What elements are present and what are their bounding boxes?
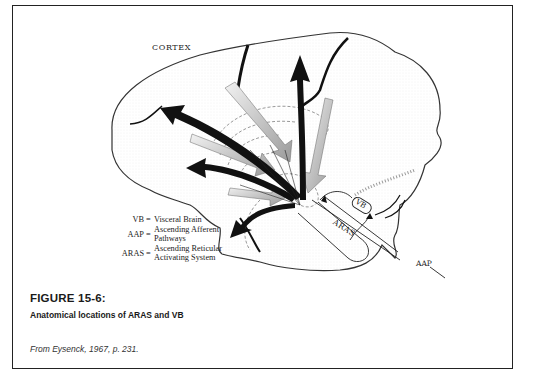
legend: VB = Visceral Brain AAP = Ascending Affe…: [100, 215, 236, 263]
legend-row-vb: VB = Visceral Brain: [100, 215, 236, 225]
legend-value: Visceral Brain: [154, 215, 202, 225]
legend-equals: =: [146, 225, 154, 244]
legend-equals: =: [146, 215, 154, 225]
legend-value: Ascending Reticular Activating System: [154, 244, 236, 263]
legend-equals: =: [146, 244, 154, 263]
legend-key: ARAS: [100, 244, 146, 263]
legend-key: VB: [100, 215, 146, 225]
legend-value: Ascending Afferent Pathways: [154, 225, 229, 244]
cortex-label: CORTEX: [152, 43, 191, 52]
figure-title: Anatomical locations of ARAS and VB: [30, 308, 190, 322]
figure-source: From Eysenck, 1967, p. 231.: [30, 344, 139, 354]
brain-diagram: CORTEX VB ARAS AAP: [0, 0, 551, 381]
legend-row-aras: ARAS = Ascending Reticular Activating Sy…: [100, 244, 236, 263]
legend-row-aap: AAP = Ascending Afferent Pathways: [100, 225, 236, 244]
aap-label: AAP: [415, 259, 432, 268]
legend-key: AAP: [100, 225, 146, 244]
figure-number: FIGURE 15-6:: [30, 292, 106, 304]
